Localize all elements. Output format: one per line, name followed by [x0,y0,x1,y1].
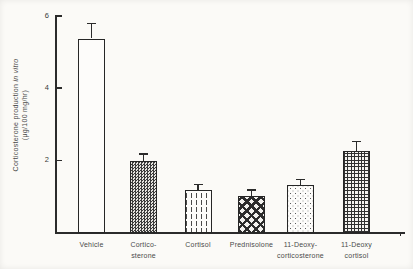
x-tick-label: 11-Deoxycortisol [315,239,399,261]
error-bar-line [300,180,301,185]
error-bar-line [251,190,252,195]
x-tick-label-line: cortisol [315,250,399,261]
error-bar-cap [194,184,203,185]
y-axis-label-text: Corticosterone production [12,82,19,172]
error-bar-line [197,185,198,190]
y-axis-line [55,15,57,234]
y-axis-label-italic: in vitro [12,59,19,82]
error-bar-cap [87,23,96,24]
y-tick [56,87,62,89]
y-tick [56,160,62,162]
bar-vehicle [78,39,105,233]
error-bar-cap [352,141,361,142]
bar-prednisolone [238,196,265,233]
bar-chart-figure: Corticosterone production in vitro (μg/1… [0,0,413,269]
y-tick-label: 6 [35,11,49,20]
error-bar-cap [296,179,305,180]
bar-cortico-sterone [130,161,157,233]
bar-11-deoxy-corticosterone [287,185,314,233]
x-axis-end-tick [400,232,401,236]
y-tick-label: 2 [35,155,49,164]
error-bar-cap [139,153,148,154]
bar-cortisol [185,190,212,233]
y-tick [56,15,62,17]
error-bar-line [143,154,144,161]
error-bar-line [356,142,357,151]
y-axis-label-units: (μg/100 mg/hr) [21,90,28,140]
error-bar-cap [247,189,256,190]
error-bar-line [91,24,92,38]
y-axis-label: Corticosterone production in vitro (μg/1… [11,24,35,206]
x-tick-label-line: 11-Deoxy [315,239,399,250]
bar-11-deoxycortisol [343,151,370,233]
y-tick-label: 4 [35,83,49,92]
x-tick-label-line: sterone [102,250,186,261]
